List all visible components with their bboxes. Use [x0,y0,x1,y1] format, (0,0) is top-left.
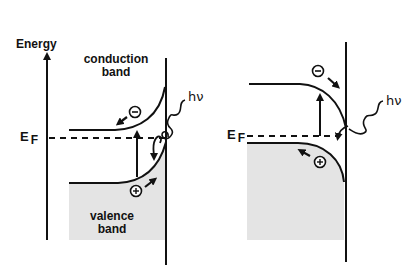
electron-drift-arrow-right [328,78,337,86]
conduction-band-right [249,84,346,128]
fermi-e-right: E [227,127,236,142]
electron-drift-arrow-left [119,117,127,123]
fermi-sub-left: F [31,133,38,147]
band-diagram-canvas [0,0,414,279]
electron-icon-right [313,66,324,77]
surface-recombination-arrow-left [153,136,161,157]
photon-label-left: hν [188,89,204,104]
fermi-sub-right: F [238,131,245,145]
right-panel [247,42,383,262]
conduction-band-label-line2: band [78,66,154,79]
hole-icon-right [315,157,326,168]
conduction-band-label: conduction band [78,53,154,79]
valence-band-fill-right [247,143,344,240]
hole-icon-left [131,186,142,197]
fermi-e-left: E [20,129,29,144]
photon-wave-right [349,101,383,134]
fermi-level-label-right: EF [227,127,245,142]
valence-band-label: valence band [80,210,144,236]
photon-label-right: hν [386,93,402,108]
valence-band-label-line2: band [80,223,144,236]
electron-icon-left [130,107,141,118]
energy-axis-label: Energy [16,38,57,51]
fermi-level-label-left: EF [20,129,38,144]
conduction-band-left [69,87,165,130]
